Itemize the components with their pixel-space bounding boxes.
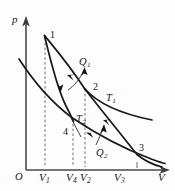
projection-lines [45, 38, 137, 168]
origin-label: O [15, 172, 23, 183]
x-axis-label: V [158, 172, 165, 183]
heat-label-q2: Q2 [96, 148, 107, 160]
heat-label-q1: Q1 [79, 57, 90, 69]
x-tick-v4-base: V [66, 171, 73, 183]
isotherm-t2-sub: 2 [82, 118, 86, 126]
pv-diagram-canvas [0, 0, 175, 191]
x-tick-v1-base: V [39, 171, 46, 183]
state-point-label-3: 3 [139, 143, 144, 153]
q1-leader-line [68, 70, 84, 90]
x-tick-label-v1: V1 [39, 172, 50, 184]
heat-q2-sub: 2 [104, 152, 108, 160]
x-tick-v3-base: V [114, 171, 121, 183]
x-tick-v4-sub: 4 [73, 176, 77, 185]
isotherm-t1-base: T [106, 92, 112, 103]
direction-arrow-4-to-1 [57, 84, 64, 94]
adiabat-4-1-curve [45, 36, 74, 122]
heat-q2-base: Q [96, 147, 104, 158]
isotherm-t2-base: T [76, 113, 82, 124]
isotherm-t1-sub: 1 [112, 97, 116, 105]
pv-diagram-figure: p V O V1 V4 V2 V3 1 2 3 4 T1 T2 Q1 Q2 [0, 0, 175, 191]
heat-q1-sub: 1 [87, 61, 91, 69]
isotherm-label-t1: T1 [106, 93, 116, 105]
q2-leader-arrowhead [100, 124, 107, 134]
isotherm-label-t2: T2 [76, 114, 86, 126]
x-tick-v2-sub: 2 [87, 176, 91, 185]
x-tick-v2-base: V [80, 171, 87, 183]
x-tick-label-v4: V4 [66, 172, 77, 184]
state-point-label-2: 2 [93, 82, 98, 92]
x-tick-label-v3: V3 [114, 172, 125, 184]
heat-q1-base: Q [79, 56, 87, 67]
x-tick-label-v2: V2 [80, 172, 91, 184]
y-axis-label: p [12, 14, 18, 25]
state-point-label-1: 1 [50, 30, 55, 40]
x-tick-v3-sub: 3 [121, 176, 125, 185]
x-tick-v1-sub: 1 [46, 176, 50, 185]
state-point-label-4: 4 [63, 127, 68, 137]
